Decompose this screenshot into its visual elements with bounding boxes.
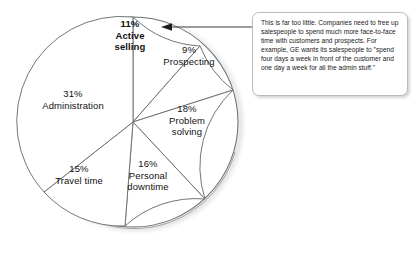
annotation-callout-text: This is far too little. Companies need t…	[261, 18, 400, 72]
slice-name-travel-time: Travel time	[40, 175, 118, 187]
slice-pct-administration: 31%	[24, 88, 122, 100]
slice-pct-personal-downtime: 16%	[110, 158, 186, 170]
slice-name-prospecting: Prospecting	[152, 56, 226, 68]
slice-label-problem-solving: 18% Problem solving	[150, 103, 224, 138]
slice-pct-problem-solving: 18%	[150, 103, 224, 115]
slice-name-personal-downtime-line1: Personal	[110, 170, 186, 182]
slice-name-administration: Administration	[24, 100, 122, 112]
slice-label-travel-time: 15% Travel time	[40, 163, 118, 186]
slice-name-problem-solving-line2: solving	[150, 126, 224, 138]
slice-pct-travel-time: 15%	[40, 163, 118, 175]
slice-name-personal-downtime-line2: downtime	[110, 181, 186, 193]
slice-pct-prospecting: 9%	[152, 44, 226, 56]
slice-pct-active-selling: 11%	[95, 18, 165, 30]
slice-label-prospecting: 9% Prospecting	[152, 44, 226, 67]
slice-label-administration: 31% Administration	[24, 88, 122, 111]
pie-chart-figure: 11% Active selling 9% Prospecting 18% Pr…	[0, 0, 417, 254]
slice-name-active-selling-line1: Active	[95, 30, 165, 42]
annotation-callout: This is far too little. Companies need t…	[252, 12, 408, 96]
slice-label-personal-downtime: 16% Personal downtime	[110, 158, 186, 193]
slice-name-problem-solving-line1: Problem	[150, 115, 224, 127]
